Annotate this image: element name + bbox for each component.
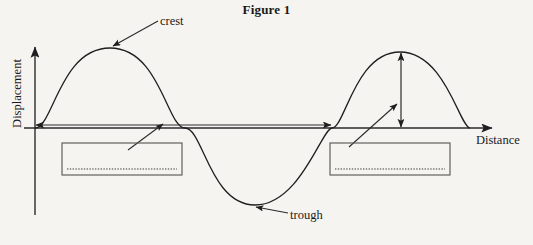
wave-curve-main: [35, 48, 470, 205]
trough-label: trough: [290, 208, 323, 223]
left-answer-box[interactable]: [62, 143, 182, 175]
y-axis-label: Displacement: [10, 44, 25, 144]
right-answer-box[interactable]: [330, 143, 450, 175]
trough-pointer: [256, 207, 288, 213]
crest-pointer: [113, 21, 158, 46]
x-axis-label: Distance: [476, 133, 520, 148]
figure-title: Figure 1: [0, 2, 533, 18]
wave-diagram-canvas: [0, 0, 533, 245]
crest-label: crest: [160, 14, 184, 29]
right-box-leader: [349, 104, 397, 147]
figure-diagram: Figure 1 crest trough Distance Displacem…: [0, 0, 533, 245]
